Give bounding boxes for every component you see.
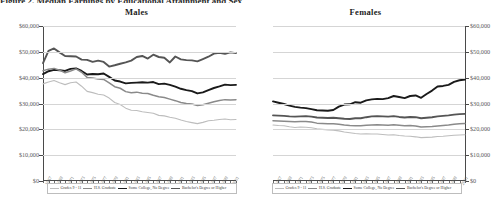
series-line — [43, 68, 236, 93]
y-axis-label: $20,000 — [470, 126, 490, 132]
series-line — [273, 121, 465, 127]
legend-item[interactable]: Grades 9 - 11 — [275, 187, 306, 191]
series-line — [273, 114, 465, 119]
legend-swatch — [343, 188, 352, 189]
legend-swatch — [396, 188, 405, 189]
legend-label: Bachelor's Degree or Higher — [407, 187, 451, 191]
legend-swatch — [275, 188, 284, 189]
legend-swatch — [171, 188, 180, 189]
y-axis-labels-left: $60,000$50,000$40,000$30,000$20,000$10,0… — [0, 26, 39, 181]
legend-label: Some College, No Degree — [129, 187, 170, 191]
chart-title-females: Females — [245, 7, 495, 17]
y-axis-label: $50,000 — [19, 49, 39, 55]
legend-label: Grades 9 - 11 — [61, 187, 82, 191]
y-axis-label: $40,000 — [19, 75, 39, 81]
y-axis-labels-right: $60,000$50,000$40,000$30,000$20,000$10,0… — [470, 26, 495, 181]
legend-swatch — [83, 188, 92, 189]
y-axis-tick — [39, 52, 43, 53]
y-axis-label: $30,000 — [19, 100, 39, 106]
legend-label: Grades 9 - 11 — [286, 187, 307, 191]
plot-area-females — [273, 26, 465, 181]
plot-area-males — [43, 26, 236, 181]
y-axis-tick — [39, 129, 43, 130]
gridline — [43, 78, 236, 79]
y-axis-tick — [465, 78, 469, 79]
gridline — [273, 104, 465, 105]
legend-swatch — [308, 188, 317, 189]
legend-item[interactable]: Bachelor's Degree or Higher — [396, 187, 451, 191]
legend-item[interactable]: Bachelor's Degree or Higher — [171, 187, 226, 191]
y-axis-label: $20,000 — [19, 126, 39, 132]
series-line — [43, 81, 236, 124]
y-axis-tick — [39, 78, 43, 79]
legend-swatch — [50, 188, 59, 189]
gridline — [43, 155, 236, 156]
y-axis-tick — [465, 26, 469, 27]
legend-item[interactable]: H.S. Graduate — [308, 187, 341, 191]
y-axis-label: $30,000 — [470, 100, 490, 106]
gridline — [43, 52, 236, 53]
legend-label: Bachelor's Degree or Higher — [182, 187, 226, 191]
y-axis-tick — [39, 26, 43, 27]
y-axis-tick — [465, 129, 469, 130]
gridline — [273, 26, 465, 27]
gridline — [43, 104, 236, 105]
y-axis-label: $60,000 — [19, 23, 39, 29]
y-axis-label: $60,000 — [470, 23, 490, 29]
gridline — [273, 155, 465, 156]
y-axis-tick — [39, 155, 43, 156]
gridline — [273, 52, 465, 53]
chart-title-males: Males — [0, 7, 259, 17]
legend-item[interactable]: Grades 9 - 11 — [50, 187, 81, 191]
series-line — [43, 68, 236, 105]
legend-label: Some College, No Degree — [354, 187, 395, 191]
legend-males: Grades 9 - 11H.S. GraduateSome College, … — [47, 183, 237, 194]
y-axis-tick — [465, 104, 469, 105]
y-axis-label: $40,000 — [470, 75, 490, 81]
y-axis-label: $10,000 — [19, 152, 39, 158]
y-axis-tick — [465, 52, 469, 53]
y-axis-label: $10,000 — [470, 152, 490, 158]
legend-item[interactable]: H.S. Graduate — [83, 187, 116, 191]
y-axis-label: $50,000 — [470, 49, 490, 55]
y-axis-tick — [39, 104, 43, 105]
gridline — [273, 78, 465, 79]
legend-item[interactable]: Some College, No Degree — [343, 187, 394, 191]
legend-females: Grades 9 - 11H.S. GraduateSome College, … — [272, 183, 462, 194]
legend-swatch — [118, 188, 127, 189]
gridline — [43, 26, 236, 27]
legend-label: H.S. Graduate — [94, 187, 116, 191]
legend-item[interactable]: Some College, No Degree — [118, 187, 169, 191]
legend-label: H.S. Graduate — [319, 187, 341, 191]
y-axis-tick — [465, 155, 469, 156]
panel-males: Males $60,000$50,000$40,000$30,000$20,00… — [0, 0, 245, 224]
y-axis-label: $0 — [470, 178, 476, 184]
series-line — [273, 79, 465, 110]
gridline — [273, 129, 465, 130]
gridline — [43, 129, 236, 130]
